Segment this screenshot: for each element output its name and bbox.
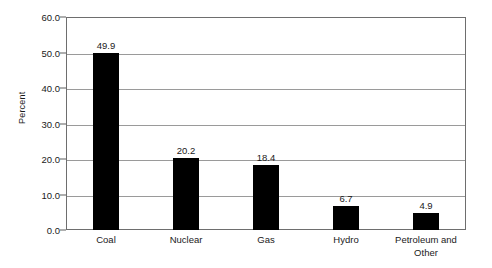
y-axis-tick-label: 0.0 [14,225,60,236]
bar-slot: 6.7 [306,17,386,230]
bar-slot: 20.2 [146,17,226,230]
bar-slot: 18.4 [226,17,306,230]
y-axis-tick-label: 50.0 [14,47,60,58]
bars-layer: 49.920.218.46.74.9 [66,17,466,230]
bar-value-label: 4.9 [419,200,432,211]
bar[interactable] [333,206,359,230]
bar-value-label: 18.4 [257,152,276,163]
bar-chart-figure: Percent 0.010.020.030.040.050.060.0 49.9… [0,0,492,268]
y-axis-tick-label: 10.0 [14,189,60,200]
y-axis-tick-label: 30.0 [14,118,60,129]
y-axis-tick-label: 40.0 [14,83,60,94]
x-axis-category-label: Nuclear [147,234,225,247]
x-axis-category-label: Hydro [307,234,385,247]
bar-slot: 4.9 [386,17,466,230]
bar-value-label: 20.2 [177,145,196,156]
bar-value-label: 6.7 [339,193,352,204]
y-axis-tick-label: 60.0 [14,12,60,23]
bar[interactable] [93,53,119,230]
bar[interactable] [253,165,279,230]
y-axis-tick-label: 20.0 [14,154,60,165]
bar[interactable] [413,213,439,230]
bar-slot: 49.9 [66,17,146,230]
bar[interactable] [173,158,199,230]
x-axis-category-label: Coal [67,234,145,247]
x-axis-category-label: Gas [227,234,305,247]
x-axis-category-label: Petroleum and Other [387,234,465,259]
x-axis-category-labels: CoalNuclearGasHydroPetroleum and Other [66,234,466,268]
bar-value-label: 49.9 [97,40,116,51]
